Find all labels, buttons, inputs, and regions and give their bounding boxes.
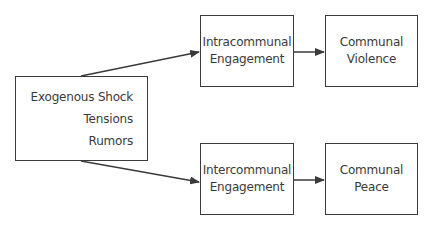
intracommunal-engagement-box: Intracommunal Engagement	[200, 15, 294, 87]
intracommunal-label-line2: Engagement	[210, 51, 285, 68]
peace-label-line2: Peace	[354, 179, 389, 196]
intercommunal-engagement-box: Intercommunal Engagement	[200, 143, 294, 215]
source-label-tensions: Tensions	[84, 108, 133, 130]
communal-violence-box: Communal Violence	[325, 15, 418, 87]
arrow-source-to-intracommunal	[81, 52, 199, 76]
intercommunal-label-line2: Engagement	[210, 179, 285, 196]
source-box: Exogenous Shock Tensions Rumors	[15, 76, 148, 161]
source-label-rumors: Rumors	[89, 130, 133, 152]
arrow-source-to-intercommunal	[81, 161, 199, 182]
peace-label-line1: Communal	[340, 162, 403, 179]
intracommunal-label-line1: Intracommunal	[203, 34, 292, 51]
violence-label-line1: Communal	[340, 34, 403, 51]
intercommunal-label-line1: Intercommunal	[203, 162, 292, 179]
source-label-exogenous-shock: Exogenous Shock	[31, 86, 133, 108]
communal-peace-box: Communal Peace	[325, 143, 418, 215]
violence-label-line2: Violence	[347, 51, 396, 68]
